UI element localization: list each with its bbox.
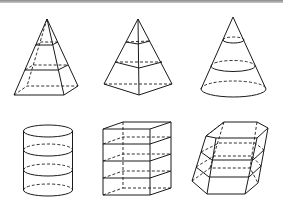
solids-diagram xyxy=(0,0,283,208)
cone xyxy=(201,17,266,97)
rectangular-prism xyxy=(103,122,171,195)
square-pyramid xyxy=(14,19,78,95)
quadrilateral-pyramid xyxy=(104,19,172,95)
cylinder xyxy=(24,125,73,196)
oblique-hexagonal-prism xyxy=(192,122,268,194)
